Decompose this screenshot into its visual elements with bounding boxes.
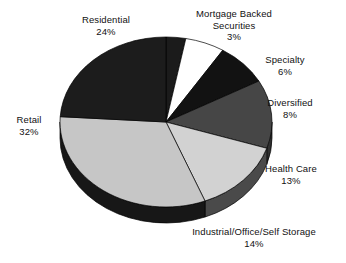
slice-label-percent: 8%	[248, 109, 332, 121]
slice-label-text: Industrial/Office/Self Storage	[168, 226, 340, 238]
slice-label-retail: Retail 32%	[4, 114, 54, 137]
slice-label-percent: 14%	[168, 238, 340, 250]
slice-label-specialty: Specialty 6%	[246, 54, 324, 77]
slice-label-diversified: Diversified 8%	[248, 97, 332, 120]
slice-label-health-care: Health Care 13%	[252, 163, 330, 186]
slice-label-text-line1: Mortgage Backed	[186, 8, 282, 20]
slice-label-text: Health Care	[252, 163, 330, 175]
slice-label-percent: 13%	[252, 175, 330, 187]
slice-label-percent: 24%	[63, 26, 149, 38]
slice-label-residential: Residential 24%	[63, 14, 149, 37]
slice-label-text: Residential	[63, 14, 149, 26]
slice-label-percent: 6%	[246, 66, 324, 78]
slice-label-percent: 32%	[4, 126, 54, 138]
pie-slice-residential	[60, 37, 166, 122]
slice-label-industrial-office-self-storage: Industrial/Office/Self Storage 14%	[168, 226, 340, 249]
slice-label-mortgage-backed-securities: Mortgage Backed Securities 3%	[186, 8, 282, 43]
slice-label-text: Specialty	[246, 54, 324, 66]
slice-label-text: Diversified	[248, 97, 332, 109]
pie-slices	[60, 37, 272, 207]
pie-chart: Residential 24% Mortgage Backed Securiti…	[0, 0, 346, 263]
slice-label-text-line2: Securities	[186, 20, 282, 32]
slice-label-text: Retail	[4, 114, 54, 126]
slice-label-percent: 3%	[186, 31, 282, 43]
